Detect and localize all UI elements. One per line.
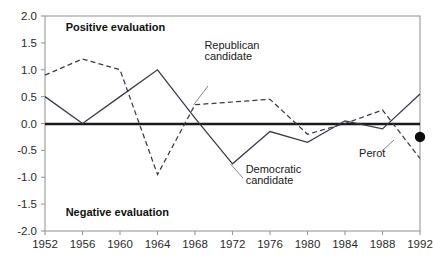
y-tick-label: 2.0 bbox=[21, 10, 37, 22]
negative-evaluation-label: Negative evaluation bbox=[66, 206, 170, 218]
line-chart: 2.01.51.00.50.0-0.5-1.0-1.5-2.0 19521956… bbox=[0, 0, 433, 268]
x-tick-label: 1968 bbox=[182, 238, 208, 250]
y-tick-label: -1.0 bbox=[17, 171, 37, 183]
y-axis-tick-labels: 2.01.51.00.50.0-0.5-1.0-1.5-2.0 bbox=[17, 10, 37, 237]
x-tick-label: 1992 bbox=[407, 238, 433, 250]
y-tick-label: 1.5 bbox=[21, 37, 37, 49]
x-axis-tick-labels: 1952195619601964196819721976198019841988… bbox=[32, 238, 433, 250]
positive-evaluation-label: Positive evaluation bbox=[66, 21, 166, 33]
y-tick-label: -1.5 bbox=[17, 198, 37, 210]
candidate-label: candidate bbox=[246, 174, 294, 186]
y-tick-label: 0.5 bbox=[21, 91, 37, 103]
perot-data-point bbox=[415, 132, 425, 142]
y-tick-label: -0.5 bbox=[17, 144, 37, 156]
candidate-label: candidate bbox=[204, 50, 252, 62]
perot-label: Perot bbox=[359, 147, 385, 159]
x-tick-label: 1964 bbox=[145, 238, 171, 250]
x-tick-label: 1976 bbox=[257, 238, 283, 250]
y-tick-label: 1.0 bbox=[21, 64, 37, 76]
y-tick-label: -2.0 bbox=[17, 225, 37, 237]
x-tick-label: 1960 bbox=[107, 238, 133, 250]
y-tick-label: 0.0 bbox=[21, 118, 37, 130]
x-tick-label: 1988 bbox=[370, 238, 396, 250]
chart-container: 2.01.51.00.50.0-0.5-1.0-1.5-2.0 19521956… bbox=[0, 0, 433, 268]
x-tick-label: 1972 bbox=[220, 238, 246, 250]
x-tick-label: 1984 bbox=[332, 238, 358, 250]
x-tick-label: 1956 bbox=[70, 238, 96, 250]
x-tick-label: 1952 bbox=[32, 238, 58, 250]
x-tick-label: 1980 bbox=[295, 238, 321, 250]
